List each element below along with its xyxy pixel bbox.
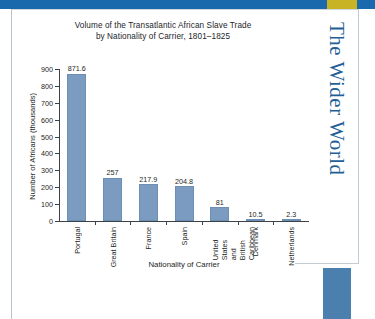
plot-region: Number of Africans (thousands) 010020030… bbox=[14, 55, 312, 235]
y-axis-tick-label: 300 bbox=[41, 166, 53, 175]
y-axis-tick bbox=[55, 153, 59, 154]
page-canvas: The Wider World Volume of the Transatlan… bbox=[0, 0, 375, 319]
x-axis-tick bbox=[238, 221, 239, 225]
page-rule-left bbox=[11, 9, 12, 319]
header-band-tail bbox=[357, 0, 375, 9]
section-rail: The Wider World bbox=[316, 22, 356, 252]
x-axis-tick bbox=[202, 221, 203, 225]
bar-value-label: 871.6 bbox=[68, 64, 86, 73]
y-axis-tick-label: 100 bbox=[41, 200, 53, 209]
x-axis-category-label: France bbox=[144, 227, 153, 249]
x-axis-category-label: Denmark bbox=[251, 227, 260, 256]
section-rail-label: The Wider World bbox=[326, 22, 347, 176]
x-axis-category-label: United States and British Caribbean bbox=[211, 227, 256, 260]
bar: 2.3 bbox=[282, 219, 301, 221]
header-band-accent bbox=[327, 0, 357, 9]
chart-title-line-2: by Nationality of Carrier, 1801–1825 bbox=[14, 32, 312, 43]
y-axis-tick-label: 0 bbox=[49, 217, 53, 226]
header-band bbox=[0, 0, 375, 9]
y-axis-tick-label: 700 bbox=[41, 98, 53, 107]
y-axis-tick bbox=[55, 170, 59, 171]
bar-value-label: 81 bbox=[216, 198, 224, 207]
y-axis-tick bbox=[55, 103, 59, 104]
bar-chart: Volume of the Transatlantic African Slav… bbox=[14, 13, 312, 308]
bar-value-label: 204.8 bbox=[175, 177, 193, 186]
x-axis-tick bbox=[166, 221, 167, 225]
bar-value-label: 257 bbox=[107, 168, 119, 177]
bar-value-label: 2.3 bbox=[286, 210, 296, 219]
page-rule-right bbox=[358, 9, 359, 264]
bar: 217.9 bbox=[139, 184, 158, 221]
chart-title: Volume of the Transatlantic African Slav… bbox=[14, 13, 312, 43]
x-axis-category-label: Spain bbox=[180, 227, 189, 245]
y-axis-title-text: Number of Africans (thousands) bbox=[28, 93, 37, 200]
y-axis-tick bbox=[55, 137, 59, 138]
x-axis-category-label: Portugal bbox=[73, 227, 82, 254]
y-axis-tick bbox=[55, 86, 59, 87]
chart-title-line-1: Volume of the Transatlantic African Slav… bbox=[14, 21, 312, 32]
y-axis-tick bbox=[55, 69, 59, 70]
y-axis-tick-label: 900 bbox=[41, 65, 53, 74]
y-axis-tick-label: 500 bbox=[41, 132, 53, 141]
axes: 0100200300400500600700800900 871.6257217… bbox=[59, 69, 309, 221]
bar: 257 bbox=[103, 178, 122, 221]
x-axis-title: Nationality of Carrier bbox=[59, 260, 309, 269]
corner-accent-block bbox=[323, 268, 351, 319]
bar: 871.6 bbox=[67, 74, 86, 221]
y-axis-tick-label: 800 bbox=[41, 81, 53, 90]
y-axis-tick bbox=[55, 204, 59, 205]
y-axis-tick-label: 200 bbox=[41, 183, 53, 192]
bar-value-label: 10.5 bbox=[248, 210, 262, 219]
bar: 204.8 bbox=[175, 186, 194, 221]
bar: 10.5 bbox=[246, 219, 265, 221]
x-axis-tick bbox=[273, 221, 274, 225]
y-axis-line bbox=[59, 69, 60, 221]
y-axis-title: Number of Africans (thousands) bbox=[26, 71, 38, 221]
y-axis-tick-label: 400 bbox=[41, 149, 53, 158]
y-axis-tick-label: 600 bbox=[41, 115, 53, 124]
bar-value-label: 217.9 bbox=[139, 175, 157, 184]
x-axis-tick bbox=[95, 221, 96, 225]
bar: 81 bbox=[210, 207, 229, 221]
page-rule-top bbox=[11, 9, 359, 10]
y-axis-tick bbox=[55, 120, 59, 121]
x-axis-line bbox=[59, 221, 309, 222]
y-axis-tick bbox=[55, 221, 59, 222]
y-axis-tick bbox=[55, 187, 59, 188]
x-axis-tick bbox=[130, 221, 131, 225]
